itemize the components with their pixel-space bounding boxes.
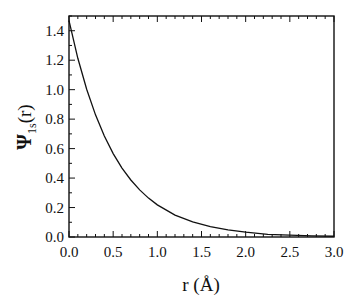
y-tick-label: 0.2: [45, 200, 64, 216]
y-tick-label: 0.0: [45, 229, 64, 245]
y-tick-label: 1.0: [45, 82, 64, 98]
y-tick-label: 1.2: [45, 52, 64, 68]
y-tick-labels: 0.00.20.40.60.81.01.21.4: [45, 23, 64, 245]
y-tick-label: 1.4: [45, 23, 64, 39]
x-tick-label: 2.5: [280, 244, 299, 260]
x-tick-label: 2.0: [236, 244, 255, 260]
chart: 0.00.51.01.52.02.53.0 0.00.20.40.60.81.0…: [0, 0, 358, 301]
y-tick-label: 0.8: [45, 111, 64, 127]
y-axis-title-main: Ψ: [13, 134, 35, 150]
x-tick-label: 0.0: [60, 244, 79, 260]
x-tick-label: 1.0: [148, 244, 167, 260]
y-axis-title-sub: 1s: [25, 123, 39, 134]
x-tick-labels: 0.00.51.01.52.02.53.0: [60, 244, 344, 260]
x-tick-label: 3.0: [325, 244, 344, 260]
y-axis-title: Ψ1s(r): [13, 104, 39, 149]
y-tick-label: 0.4: [45, 170, 64, 186]
axis-ticks: [69, 16, 334, 237]
y-axis-title-arg: (r): [14, 104, 36, 123]
x-axis-title: r (Å): [182, 274, 219, 296]
x-tick-label: 1.5: [192, 244, 211, 260]
plot-frame: [69, 16, 334, 237]
y-tick-label: 0.6: [45, 141, 64, 157]
x-tick-label: 0.5: [104, 244, 123, 260]
psi-1s-curve: [69, 21, 334, 237]
